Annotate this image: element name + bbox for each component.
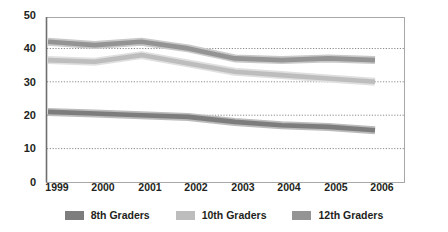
x-tick-label: 2005 [324,181,347,193]
x-axis: 1999 2000 2001 2002 2003 2004 2005 2006 [0,181,448,203]
x-tick-label: 2003 [231,181,254,193]
chart-legend: 8th Graders 10th Graders 12th Graders [0,203,448,227]
x-tick-label: 1999 [45,181,68,193]
line-chart: 50 40 30 20 10 0 [0,0,448,232]
x-tick-label: 2004 [277,181,300,193]
x-tick-label: 2002 [184,181,207,193]
legend-label: 8th Graders [91,209,150,221]
legend-item-8th-graders[interactable]: 8th Graders [65,209,150,221]
legend-label: 12th Graders [318,209,383,221]
legend-swatch-icon [65,211,84,220]
legend-item-10th-graders[interactable]: 10th Graders [176,209,267,221]
legend-swatch-icon [292,211,311,220]
x-tick-label: 2006 [370,181,393,193]
legend-item-12th-graders[interactable]: 12th Graders [292,209,383,221]
x-tick-label: 2001 [138,181,161,193]
legend-label: 10th Graders [202,209,267,221]
legend-swatch-icon [176,211,195,220]
x-tick-label: 2000 [91,181,114,193]
